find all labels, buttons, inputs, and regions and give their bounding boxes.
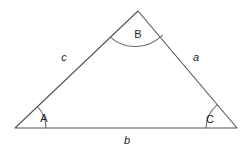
triangle-outline [15, 11, 237, 128]
side-label-a: a [193, 51, 199, 63]
triangle-diagram: A B C a b c [0, 0, 249, 152]
angle-label-a: A [40, 112, 48, 124]
angle-label-c: C [206, 113, 214, 125]
angle-label-b: B [134, 28, 141, 40]
side-label-c: c [61, 51, 67, 63]
side-label-b: b [124, 134, 130, 146]
triangle-canvas: A B C a b c [0, 0, 249, 152]
